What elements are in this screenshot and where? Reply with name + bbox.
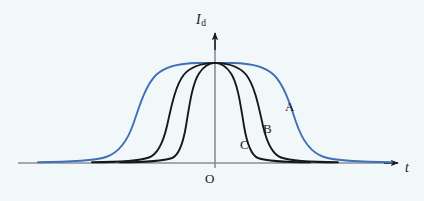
curve-label-a: A bbox=[285, 100, 294, 113]
y-axis-label: Id bbox=[196, 13, 206, 29]
curve-label-c: C bbox=[240, 138, 249, 151]
curve-label-b: B bbox=[263, 122, 272, 135]
y-axis-label-symbol: I bbox=[196, 12, 201, 27]
origin-label: O bbox=[205, 172, 214, 185]
physics-figure: Id t O A B C bbox=[0, 0, 424, 201]
x-axis-label: t bbox=[405, 161, 409, 175]
y-axis-label-subscript: d bbox=[201, 18, 206, 28]
